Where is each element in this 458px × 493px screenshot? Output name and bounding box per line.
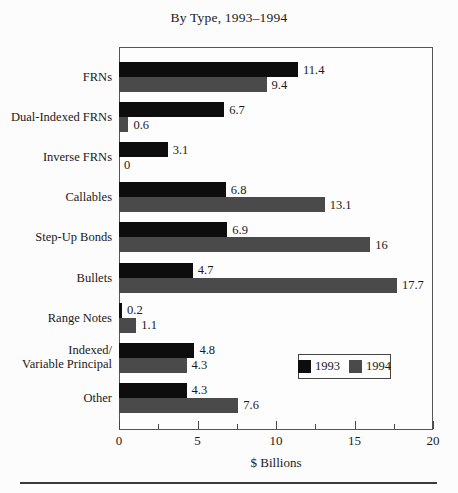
x-major-tick [119,421,120,429]
bar-1993 [119,102,224,117]
legend-swatch-icon [349,360,362,373]
bar-1993 [119,142,168,157]
category-label: Range Notes [4,310,112,325]
category-label-line: Dual-Indexed FRNs [4,110,112,125]
category-label-line: Indexed/ [4,343,112,358]
chart-title: By Type, 1993–1994 [0,10,458,26]
bar-value-label: 6.9 [232,222,248,237]
x-minor-tick [315,424,316,429]
bar-value-label: 17.7 [402,278,424,293]
x-minor-tick [394,424,395,429]
bar-value-label: 4.8 [199,343,215,358]
category-label-line: Inverse FRNs [4,150,112,165]
x-major-tick [276,421,277,429]
bar-value-label: 13.1 [330,197,352,212]
bar-1993 [119,263,193,278]
legend: 19931994 [298,354,391,379]
x-minor-tick [237,424,238,429]
bar-value-label: 0 [124,157,130,172]
bar-value-label: 4.7 [198,263,214,278]
x-tick-label: 20 [418,433,448,449]
category-label: Other [4,390,112,405]
x-major-tick [433,421,434,429]
category-label-line: Range Notes [4,310,112,325]
bar-value-label: 9.4 [272,77,288,92]
bar-1993 [119,222,227,237]
category-label: Step-Up Bonds [4,230,112,245]
category-label-line: Callables [4,190,112,205]
bar-value-label: 6.7 [229,102,245,117]
category-label: Dual-Indexed FRNs [4,110,112,125]
bar-value-label: 1.1 [141,318,157,333]
legend-label: 1993 [315,359,340,374]
x-axis-title: $ Billions [216,455,336,471]
x-major-tick [198,421,199,429]
legend-entry-1993: 1993 [298,359,340,374]
category-label: Indexed/Variable Principal [4,343,112,373]
category-label-line: Step-Up Bonds [4,230,112,245]
bar-value-label: 4.3 [192,383,208,398]
bar-1993 [119,182,226,197]
legend-swatch-icon [298,360,311,373]
legend-label: 1994 [366,359,391,374]
x-major-tick [355,421,356,429]
bar-value-label: 3.1 [173,142,189,157]
bar-value-label: 16 [375,237,388,252]
bar-1994 [119,197,325,212]
bar-value-label: 4.3 [192,358,208,373]
bar-1993 [119,343,194,358]
bar-1993 [119,383,187,398]
category-label: Callables [4,190,112,205]
figure-page: By Type, 1993–1994 FRNs11.49.4Dual-Index… [0,0,458,493]
category-label-line: FRNs [4,70,112,85]
bar-1994 [119,237,370,252]
category-label: Bullets [4,270,112,285]
x-tick-label: 15 [340,433,370,449]
bar-1994 [119,358,187,373]
x-tick-label: 5 [183,433,213,449]
bar-1993 [119,62,298,77]
x-minor-tick [158,424,159,429]
bar-1994 [119,77,267,92]
bar-1994 [119,318,136,333]
x-tick-label: 10 [261,433,291,449]
bar-value-label: 0.6 [133,117,149,132]
category-label-line: Other [4,390,112,405]
category-label: FRNs [4,70,112,85]
bar-1994 [119,117,128,132]
category-label-line: Variable Principal [4,358,112,373]
category-label: Inverse FRNs [4,150,112,165]
bar-value-label: 6.8 [231,182,247,197]
legend-entry-1994: 1994 [349,359,391,374]
bar-1993 [119,303,122,318]
bar-1994 [119,398,238,413]
x-tick-label: 0 [104,433,134,449]
category-label-line: Bullets [4,270,112,285]
bottom-rule [20,482,437,484]
bar-value-label: 7.6 [243,398,259,413]
bar-value-label: 11.4 [303,62,324,77]
bar-1994 [119,278,397,293]
bar-value-label: 0.2 [127,303,143,318]
